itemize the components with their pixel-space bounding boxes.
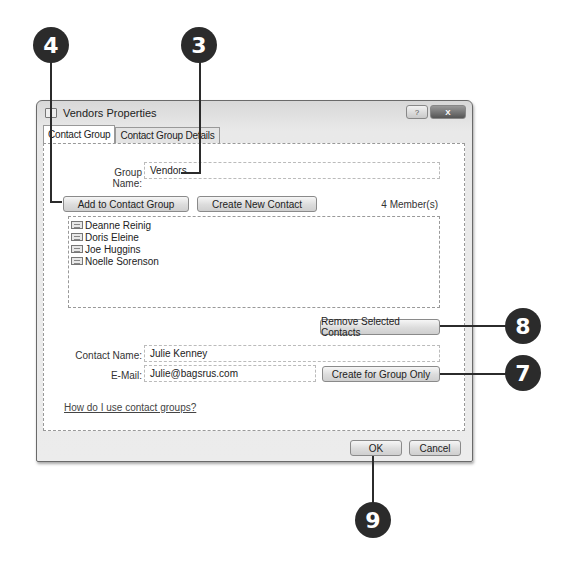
list-item[interactable]: Doris Eleine: [71, 231, 439, 243]
list-item[interactable]: Joe Huggins: [71, 243, 439, 255]
contact-group-panel: Group Name: Vendors Add to Contact Group…: [43, 143, 465, 431]
help-button[interactable]: ?: [406, 105, 428, 119]
callout-3-line-horizontal: [181, 172, 201, 174]
close-icon: X: [445, 108, 450, 117]
callout-3: 3: [181, 27, 217, 63]
remove-selected-contacts-button[interactable]: Remove Selected Contacts: [320, 319, 440, 335]
help-link[interactable]: How do I use contact groups?: [64, 402, 196, 413]
ok-button[interactable]: OK: [350, 440, 402, 456]
tab-contact-group[interactable]: Contact Group: [43, 125, 115, 143]
tab-contact-group-details[interactable]: Contact Group Details: [115, 127, 219, 143]
callout-9: 9: [355, 502, 391, 538]
contact-name-label: Contact Name:: [64, 350, 142, 361]
callout-4-line-horizontal: [50, 201, 62, 203]
member-count: 4 Member(s): [364, 199, 438, 210]
cancel-button[interactable]: Cancel: [409, 440, 461, 456]
list-item[interactable]: Noelle Sorenson: [71, 255, 439, 267]
contact-card-icon: [71, 221, 83, 229]
email-label: E-Mail:: [84, 370, 142, 381]
contact-card-icon: [71, 257, 83, 265]
tab-bar: Contact Group Contact Group Details: [43, 127, 220, 143]
window-title: Vendors Properties: [63, 107, 157, 119]
contact-name-input[interactable]: Julie Kenney: [144, 345, 440, 362]
title-bar[interactable]: Vendors Properties ? X: [37, 101, 472, 125]
callout-7-line: [440, 373, 506, 375]
close-button[interactable]: X: [430, 105, 466, 119]
callout-4: 4: [33, 27, 69, 63]
callout-4-line: [50, 62, 52, 202]
group-name-label: Group Name:: [84, 167, 142, 189]
callout-7: 7: [505, 355, 541, 391]
callout-8-line: [440, 325, 506, 327]
contact-card-icon: [71, 233, 83, 241]
help-icon: ?: [415, 108, 419, 117]
properties-dialog: Vendors Properties ? X Contact Group Con…: [36, 100, 473, 462]
list-item[interactable]: Deanne Reinig: [71, 219, 439, 231]
email-input[interactable]: Julie@bagsrus.com: [144, 365, 316, 382]
callout-3-line: [199, 62, 201, 174]
group-name-input[interactable]: Vendors: [144, 162, 440, 179]
callout-8: 8: [505, 308, 541, 344]
contact-card-icon: [71, 245, 83, 253]
add-to-contact-group-button[interactable]: Add to Contact Group: [63, 196, 189, 212]
create-for-group-only-button[interactable]: Create for Group Only: [322, 366, 440, 382]
create-new-contact-button[interactable]: Create New Contact: [197, 196, 317, 212]
callout-9-line: [372, 456, 374, 504]
members-list[interactable]: Deanne Reinig Doris Eleine Joe Huggins N…: [68, 216, 440, 308]
